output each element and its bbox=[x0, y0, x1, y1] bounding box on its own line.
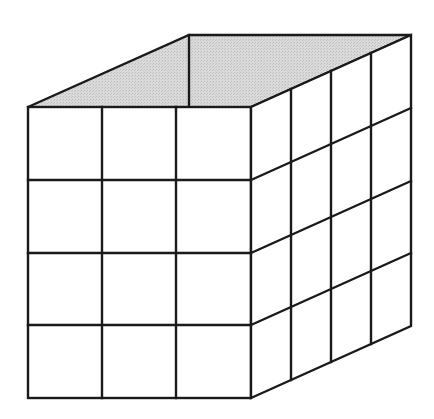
front-face bbox=[28, 107, 251, 398]
box-diagram bbox=[0, 0, 434, 419]
diagram-canvas bbox=[0, 0, 434, 419]
